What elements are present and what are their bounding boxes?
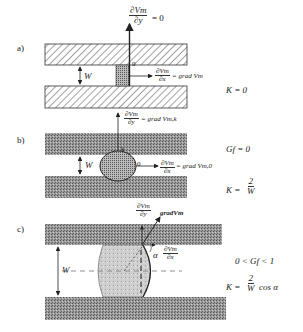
panel-label-a: a) [17, 44, 24, 53]
condition-gf-b: Gf = 0 [226, 145, 250, 154]
bottom-plate-a [45, 86, 187, 108]
grad-y-denominator-c: ∂y [139, 211, 148, 218]
condition-k-fraction-b: 2 W [246, 177, 256, 196]
liquid-plug-a [116, 65, 129, 86]
grad-x-equation-b: ∂Vm ∂x [160, 160, 175, 175]
condition-k-suffix-c: cos α [259, 283, 278, 292]
grad-x-rhs-b: = grad Vm,0 [176, 163, 212, 170]
panel-c [45, 217, 226, 320]
panel-a [45, 24, 187, 108]
top-plate-a [45, 44, 187, 65]
grad-x-rhs-a: = grad Vm [172, 73, 203, 80]
point-label-k: k [121, 146, 125, 153]
condition-k-denominator-c: W [246, 284, 256, 293]
grad-y-equation-b: ∂Vm ∂y [124, 111, 139, 126]
grad-y-equation-a: ∂Vm ∂y [129, 6, 147, 25]
grad-x-denominator-a: ∂x [158, 76, 167, 83]
grad-x-equation-a: ∂Vm ∂x [155, 68, 170, 83]
gap-label-b: W [85, 161, 93, 170]
bottom-plate-c [45, 297, 226, 320]
gap-label-c: W [62, 266, 70, 275]
grad-x-denominator-b: ∂x [163, 168, 172, 175]
marker-a: 0 [132, 61, 136, 68]
angle-arc-c [150, 245, 151, 252]
condition-k-lhs-c: K = [226, 283, 240, 292]
capillary-diagram [0, 0, 303, 332]
panel-b [45, 113, 187, 198]
angle-label-c: α [153, 251, 158, 260]
grad-x-equation-c: ∂Vm ∂x [163, 246, 178, 261]
point-label-0: 0 [137, 161, 141, 168]
grad-y-equation-c: ∂Vm ∂y [136, 203, 151, 218]
grad-y-denominator-a: ∂y [133, 16, 143, 25]
top-plate-c [45, 224, 222, 245]
grad-y-denominator-b: ∂y [127, 119, 136, 126]
panel-label-c: c) [17, 225, 24, 234]
condition-a: K = 0 [226, 86, 247, 95]
condition-k-fraction-c: 2 W [246, 274, 256, 293]
panel-label-b: b) [17, 136, 25, 145]
condition-gf-c: 0 < Gf < 1 [235, 257, 274, 266]
grad-x-denominator-c: ∂x [166, 254, 175, 261]
grad-y-rhs-a: = 0 [152, 14, 164, 23]
gap-label-a: W [84, 72, 92, 81]
grad-y-rhs-b: = grad Vm,k [141, 116, 177, 123]
grad-vector-label-c: gradVm [160, 210, 183, 217]
droplet-b [100, 151, 136, 181]
condition-k-denominator-b: W [246, 187, 256, 196]
condition-k-lhs-b: K = [226, 186, 240, 195]
